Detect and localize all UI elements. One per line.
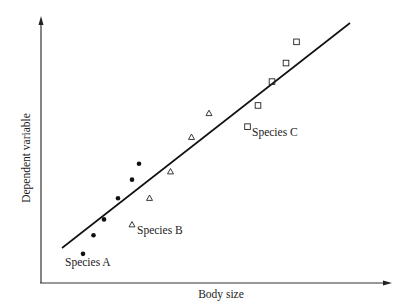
species-b-point (147, 195, 153, 200)
species-b-label: Species B (137, 224, 183, 237)
species-b-point (206, 110, 212, 115)
x-axis-label: Body size (198, 288, 244, 301)
species-c-label: Species C (252, 126, 298, 139)
fit-line (62, 23, 350, 248)
species-a-point (102, 217, 107, 222)
species-a-label: Species A (65, 256, 111, 269)
species-a-point (137, 161, 142, 166)
axes (39, 16, 393, 286)
species-b-point (129, 222, 135, 227)
species-a-point (91, 233, 96, 238)
x-axis-arrow-icon (383, 281, 392, 286)
species-a-point (130, 177, 135, 182)
species-b-point (168, 169, 174, 174)
species-c-point (255, 103, 261, 109)
species-b-point (189, 134, 195, 139)
scatter-chart: Body size Dependent variable Species A S… (0, 0, 413, 306)
species-c-point (245, 124, 251, 130)
species-c-point (294, 39, 300, 45)
y-axis-label: Dependent variable (20, 113, 33, 203)
species-c-point (283, 60, 289, 66)
species-a-point (116, 196, 121, 201)
y-axis-arrow-icon (39, 16, 44, 25)
